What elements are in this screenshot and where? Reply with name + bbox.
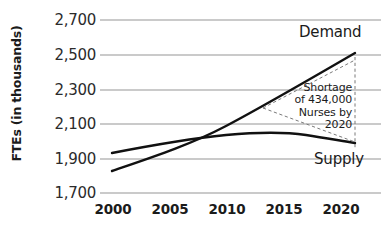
x-axis-tick-labels: 2000 2005 2010 2015 2020 <box>0 0 387 231</box>
x-tick-label: 2015 <box>254 203 314 217</box>
x-tick-label: 2010 <box>197 203 257 217</box>
x-tick-label: 2000 <box>83 203 143 217</box>
x-tick-label: 2020 <box>311 203 371 217</box>
x-tick-label: 2005 <box>140 203 200 217</box>
chart-container: FTEs (in thousands) 2,700 2,500 2,300 2,… <box>0 0 387 231</box>
